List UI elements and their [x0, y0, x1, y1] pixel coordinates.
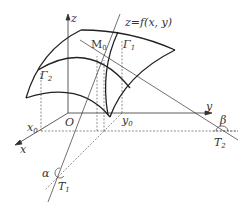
x-axis	[17, 113, 68, 144]
curve-gamma2	[38, 58, 130, 88]
tangent-T2	[80, 40, 238, 140]
surface-right-edge	[110, 50, 175, 117]
x-axis-label: x	[20, 143, 27, 156]
labels: z y x O z=f(x, y) M0 Γ1 Γ2 x0 y0 T1 T2 α…	[20, 12, 226, 194]
surface-label: z=f(x, y)	[124, 16, 172, 29]
y0-label: y0	[121, 114, 133, 128]
tangent-t1-label: T1	[58, 180, 70, 194]
curve-gamma2-label: Γ2	[39, 69, 53, 83]
y-axis-label: y	[205, 100, 213, 113]
origin-label: O	[65, 116, 74, 129]
tangent-t2-label: T2	[214, 136, 226, 150]
point-m0-label: M0	[91, 38, 107, 52]
angle-alpha-arc	[55, 168, 64, 178]
surface-left-edge	[26, 30, 81, 98]
curve-gamma1-label: Γ1	[122, 38, 135, 52]
partial-derivative-diagram: z y x O z=f(x, y) M0 Γ1 Γ2 x0 y0 T1 T2 α…	[0, 0, 247, 214]
z-axis-arrow	[66, 14, 70, 20]
projection-lines	[41, 40, 238, 190]
angle-alpha-label: α	[42, 167, 50, 180]
z-axis-label: z	[70, 12, 77, 25]
x0-label: x0	[27, 121, 38, 135]
angle-beta-label: β	[219, 114, 226, 127]
